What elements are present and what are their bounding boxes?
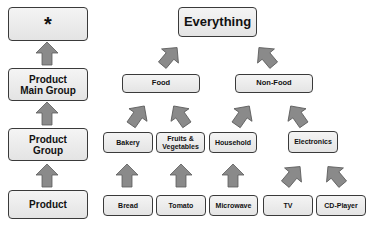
node-fruits-vegetables: Fruits & Vegetables <box>156 132 205 153</box>
level-main-group-label: Product Main Group <box>20 74 76 96</box>
node-food: Food <box>122 74 200 93</box>
node-label: TV <box>284 202 293 210</box>
arrow-up-icon <box>36 42 58 65</box>
node-bakery: Bakery <box>103 132 153 153</box>
arrow-up-icon <box>170 164 192 187</box>
arrow-up-icon <box>222 164 244 187</box>
arrow-up-left-icon <box>320 160 352 192</box>
node-non-food: Non-Food <box>235 74 313 93</box>
arrow-up-right-icon <box>154 41 186 73</box>
node-label: Food <box>152 79 170 87</box>
arrow-up-right-icon <box>227 100 258 131</box>
node-label: Tomato <box>169 202 194 210</box>
level-top-label: * <box>44 13 52 35</box>
node-label: Non-Food <box>256 79 291 87</box>
arrow-up-left-icon <box>251 41 283 73</box>
level-group-box: Product Group <box>8 128 88 161</box>
node-label: Bread <box>118 202 138 210</box>
node-bread: Bread <box>103 195 153 216</box>
level-top-box: * <box>8 7 88 41</box>
node-household: Household <box>209 132 257 153</box>
node-tomato: Tomato <box>156 195 206 216</box>
node-label: Microwave <box>216 202 252 210</box>
level-product-label: Product <box>29 199 67 210</box>
level-product-box: Product <box>8 190 88 219</box>
node-everything: Everything <box>178 7 257 37</box>
node-label: CD-Player <box>324 202 357 210</box>
level-main-group-box: Product Main Group <box>8 68 88 101</box>
arrow-up-right-icon <box>122 100 153 131</box>
node-label: Household <box>215 139 251 147</box>
node-label: Bakery <box>116 139 139 147</box>
arrow-up-icon <box>36 102 58 125</box>
node-electronics: Electronics <box>288 131 338 153</box>
node-label: Electronics <box>294 138 332 146</box>
arrow-up-left-icon <box>165 100 196 131</box>
level-group-label: Product Group <box>29 134 67 156</box>
node-tv: TV <box>263 195 313 216</box>
arrow-up-left-icon <box>282 100 313 131</box>
node-cd-player: CD-Player <box>316 195 366 216</box>
arrow-up-icon <box>36 164 58 187</box>
node-label: Everything <box>184 15 251 29</box>
node-label: Fruits & Vegetables <box>162 135 199 150</box>
arrow-up-right-icon <box>277 160 309 192</box>
arrow-up-icon <box>116 164 138 187</box>
node-microwave: Microwave <box>209 195 258 216</box>
